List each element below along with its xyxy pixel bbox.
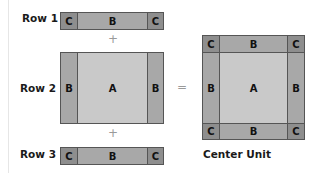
row-1-piece-c-left: C: [60, 12, 78, 30]
unit-corner-top-right: C: [287, 35, 305, 53]
row-2-label: Row 2: [20, 82, 56, 94]
unit-corner-bottom-right: C: [287, 123, 305, 140]
unit-corner-top-left: C: [202, 35, 220, 53]
left-margin-rule: [8, 0, 9, 173]
unit-border-top: B: [219, 35, 288, 53]
equals-sign: =: [177, 80, 187, 94]
row-3-piece-c-left: C: [60, 147, 78, 165]
center-unit-caption: Center Unit: [203, 148, 271, 160]
row-1-label: Row 1: [22, 12, 58, 24]
unit-border-left: B: [202, 52, 220, 124]
unit-center-a: A: [219, 52, 288, 124]
plus-sign-1: +: [108, 32, 118, 46]
row-3-piece-c-right: C: [147, 147, 164, 165]
row-3-piece-b: B: [77, 147, 148, 165]
row-3-label: Row 3: [20, 148, 56, 160]
row-2-piece-b-left: B: [60, 52, 78, 124]
row-2-piece-b-right: B: [147, 52, 164, 124]
row-2-piece-a: A: [77, 52, 148, 124]
row-1-piece-b: B: [77, 12, 148, 30]
unit-corner-bottom-left: C: [202, 123, 220, 140]
unit-border-right: B: [287, 52, 305, 124]
plus-sign-2: +: [108, 126, 118, 140]
row-1-piece-c-right: C: [147, 12, 164, 30]
unit-border-bottom: B: [219, 123, 288, 140]
